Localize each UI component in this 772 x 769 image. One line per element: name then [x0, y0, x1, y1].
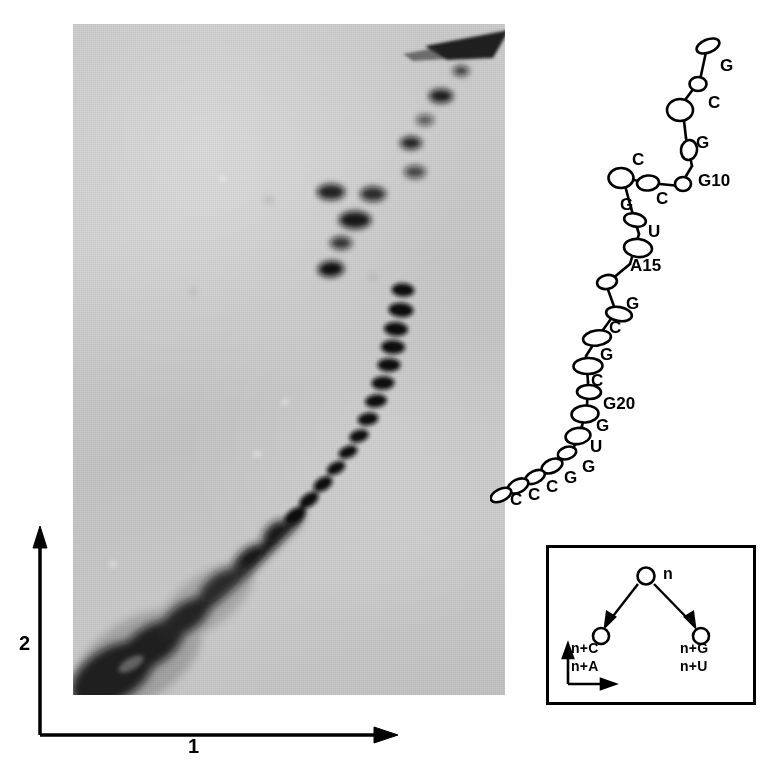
sequence-trace-svg: G C G G10 C C G U A15 G C G C G20 G U G …: [490, 26, 772, 506]
sequence-node: [690, 77, 707, 91]
legend-label-left-2: n+A: [571, 658, 598, 674]
base-label: G: [620, 195, 633, 214]
legend-box: n n+C n+A n+G n+U: [546, 545, 756, 705]
sequence-node: [596, 273, 618, 291]
film-light-specks: [109, 176, 289, 567]
base-label: G: [696, 133, 709, 152]
sequence-node: [694, 35, 721, 56]
legend-label-right-2: n+U: [680, 658, 707, 674]
sequence-node: [609, 168, 634, 188]
base-label: C: [591, 371, 603, 390]
legend-node-n: [638, 568, 655, 585]
base-label: G20: [603, 394, 635, 413]
base-label: U: [648, 222, 660, 241]
legend-diagram: [549, 548, 753, 702]
spot-ladder-upper: [317, 66, 469, 278]
base-label: U: [590, 437, 602, 456]
base-label: C: [528, 485, 540, 504]
legend-label-n: n: [663, 565, 673, 583]
sequence-node: [571, 405, 599, 424]
base-label: A15: [630, 256, 661, 275]
base-label: G: [564, 468, 577, 487]
base-label: G: [600, 345, 613, 364]
axis-1-label: 1: [188, 735, 199, 758]
base-label: G: [582, 457, 595, 476]
legend-arrow-right: [654, 584, 695, 627]
spot-ladder: [281, 282, 415, 528]
sequence-base-labels: G C G G10 C C G U A15 G C G C G20 G U G …: [510, 56, 733, 506]
base-label: C: [546, 477, 558, 496]
sequence-node: [565, 426, 592, 445]
dimension-axes: [0, 510, 440, 765]
base-label: G: [720, 56, 733, 75]
legend-label-left-1: n+C: [571, 640, 598, 656]
sequence-node: [675, 177, 691, 191]
base-label: C: [609, 318, 621, 337]
base-label: C: [510, 490, 522, 506]
axis-1-arrow: [40, 727, 398, 743]
base-label: C: [708, 93, 720, 112]
base-label: G: [626, 294, 639, 313]
base-label: G10: [698, 171, 730, 190]
legend-label-right-1: n+G: [680, 640, 708, 656]
base-label: C: [656, 189, 668, 208]
base-label: C: [632, 150, 644, 169]
axis-2-label: 2: [19, 632, 30, 655]
base-label: G: [596, 416, 609, 435]
rna-sequence-trace-diagram: G C G G10 C C G U A15 G C G C G20 G U G …: [490, 26, 772, 506]
axis-2-arrow: [33, 526, 47, 735]
sequence-node: [667, 99, 693, 121]
legend-arrow-left: [605, 584, 638, 627]
